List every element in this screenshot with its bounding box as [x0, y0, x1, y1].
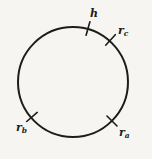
label-rc-sub: c [124, 29, 129, 38]
label-ra-sub: a [125, 131, 130, 140]
label-rb: rb [16, 122, 27, 135]
label-rc: rc [118, 25, 128, 38]
circle-diagram: h rc rb ra [0, 0, 152, 159]
label-rb-sub: b [22, 126, 27, 135]
label-h: h [90, 8, 98, 21]
label-h-base: h [90, 7, 98, 20]
label-ra: ra [119, 127, 130, 140]
